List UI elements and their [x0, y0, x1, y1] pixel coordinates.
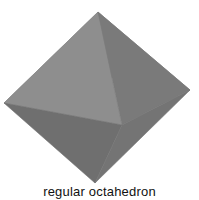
figure-caption: regular octahedron: [0, 184, 199, 199]
octahedron-figure: [0, 0, 199, 200]
octahedron-faces: [4, 12, 190, 183]
